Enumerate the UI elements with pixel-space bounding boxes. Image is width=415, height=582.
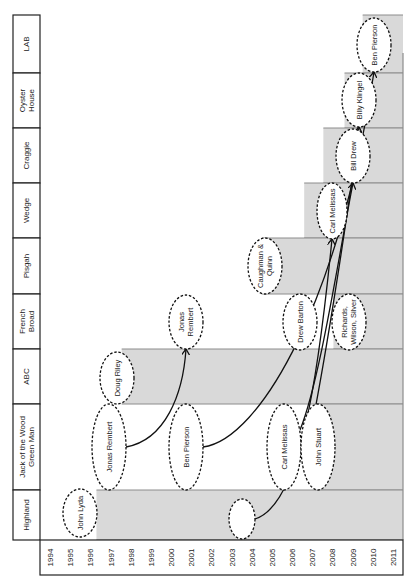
year-label: 1996 <box>86 548 95 566</box>
restaurant-name-line: Oyster <box>18 88 27 112</box>
year-tick: 2009 <box>349 548 358 566</box>
year-tick: 2006 <box>288 548 297 566</box>
year-tick: 1999 <box>147 548 156 566</box>
restaurant-name-line: House <box>27 88 36 112</box>
chef-name: Bill Drew <box>349 141 358 171</box>
year-label: 1995 <box>66 548 75 566</box>
chef-name: Billy Klingel <box>355 80 364 119</box>
chef-name-line: John Stuart <box>314 427 323 466</box>
chef-name: Ben Pierson <box>370 25 379 66</box>
open-period-bar <box>262 238 403 294</box>
year-label: 1998 <box>127 548 136 566</box>
chef-name: Doug Riley <box>113 359 122 396</box>
year-label: 2000 <box>167 548 176 566</box>
year-tick: 2011 <box>389 548 398 566</box>
year-tick: 1997 <box>107 548 116 566</box>
chef-name-line: Jonas Rembert <box>105 421 114 473</box>
restaurant-name-line: LAB <box>22 36 31 51</box>
restaurant-name-line: Jack of the Wood <box>18 416 27 478</box>
year-axis: 1994199519961997199819992000200120022003… <box>40 540 403 575</box>
chef-name-line: Bill Drew <box>349 141 358 171</box>
restaurant-name-line: French <box>18 309 27 334</box>
restaurant-name: Craggie <box>22 141 31 170</box>
year-tick: 2003 <box>228 548 237 566</box>
restaurant-name: OysterHouse <box>18 88 36 112</box>
chef-bubble-bill-drew: Bill Drew <box>336 129 370 183</box>
chef-name-line: Carl Melissas <box>280 424 289 469</box>
chef-bubble-drew-barton: Drew Barton <box>283 294 317 350</box>
restaurant-headers: LABOysterHouseCraggieWedgePisgahFrenchBr… <box>13 15 40 540</box>
restaurant-name-line: Green Man <box>27 427 36 467</box>
restaurant-name-line: Wedge <box>22 197 31 223</box>
chef-bubble-john-lyda: John Lyda <box>63 489 97 537</box>
restaurant-name-line: Pisgah <box>22 254 31 278</box>
year-label: 1999 <box>147 548 156 566</box>
chef-bubble-carl-melissas-wedge: Carl Melissas <box>317 183 347 239</box>
restaurant-name-line: Broad <box>27 311 36 332</box>
year-tick: 2004 <box>248 548 257 566</box>
year-tick: 2001 <box>187 548 196 566</box>
restaurant-name-line: ABC <box>22 368 31 385</box>
restaurant-name-line: Highland <box>22 499 31 531</box>
year-label: 2010 <box>369 548 378 566</box>
chef-name-line: Quinn <box>265 256 274 276</box>
chef-bubble-caughman-quinn: Caughman &Quinn <box>248 238 282 294</box>
year-tick: 2007 <box>308 548 317 566</box>
chef-bubble-ben-pierson-lab: Ben Pierson <box>357 18 391 72</box>
year-label: 2007 <box>308 548 317 566</box>
restaurant-name: Highland <box>22 499 31 531</box>
chef-name: John Stuart <box>314 427 323 466</box>
restaurant-name: Pisgah <box>22 254 31 278</box>
chef-bubble-carl-melissas-jack: Carl Melissas <box>267 404 301 490</box>
chef-bubble-jonas-rembert-jack: Jonas Rembert <box>92 404 126 490</box>
year-tick: 2002 <box>207 548 216 566</box>
restaurant-name: FrenchBroad <box>18 309 36 334</box>
chef-name-line: Drew Barton <box>296 301 305 343</box>
chef-name: Drew Barton <box>296 301 305 343</box>
chef-bubble-unnamed <box>229 499 255 539</box>
restaurant-name: LAB <box>22 36 31 51</box>
diagram-canvas: LABOysterHouseCraggieWedgePisgahFrenchBr… <box>0 0 415 582</box>
year-label: 2002 <box>207 548 216 566</box>
chef-bubble-doug-riley: Doug Riley <box>100 352 134 404</box>
chef-name-line: Wilson, Silver <box>349 299 358 345</box>
year-label: 2005 <box>268 548 277 566</box>
year-label: 2009 <box>349 548 358 566</box>
restaurant-name: Wedge <box>22 197 31 223</box>
year-label: 1994 <box>46 548 55 566</box>
year-tick: 2005 <box>268 548 277 566</box>
year-tick: 1998 <box>127 548 136 566</box>
restaurant-name-line: Craggie <box>22 141 31 170</box>
chef-bubble-john-stuart: John Stuart <box>301 404 335 490</box>
chef-name: John Lyda <box>76 495 85 530</box>
year-label: 1997 <box>107 548 116 566</box>
chef-name-line: Doug Riley <box>113 359 122 396</box>
year-label: 2008 <box>328 548 337 566</box>
chef-name-line: Carl Melissas <box>328 188 337 233</box>
chef-name-line: Ben Pierson <box>182 427 191 468</box>
open-period-bar <box>122 349 403 404</box>
year-label: 2006 <box>288 548 297 566</box>
chef-name: Carl Melissas <box>328 188 337 233</box>
year-tick: 1994 <box>46 548 55 566</box>
chef-name: Carl Melissas <box>280 424 289 469</box>
chef-name-line: Billy Klingel <box>355 80 364 119</box>
chef-name-line: John Lyda <box>76 495 85 530</box>
chef-bubble-outline <box>229 499 255 539</box>
chef-bubble-ben-pierson-jack: Ben Pierson <box>169 404 203 490</box>
year-tick: 2008 <box>328 548 337 566</box>
chef-bubble-richards-wilson-silver: Richards,Wilson, Silver <box>332 294 366 350</box>
chef-bubble-jonas-rembert-fb: JonasRembert <box>169 295 203 349</box>
chef-name-line: Rembert <box>186 307 195 337</box>
year-tick: 2010 <box>369 548 378 566</box>
year-tick: 2000 <box>167 548 176 566</box>
chef-name: Ben Pierson <box>182 427 191 468</box>
year-label: 2011 <box>389 548 398 566</box>
chef-name-line: Ben Pierson <box>370 25 379 66</box>
year-label: 2001 <box>187 548 196 566</box>
year-label: 2004 <box>248 548 257 566</box>
chef-name: Jonas Rembert <box>105 421 114 473</box>
year-label: 2003 <box>228 548 237 566</box>
restaurant-name: ABC <box>22 368 31 385</box>
timeline-diagram: LABOysterHouseCraggieWedgePisgahFrenchBr… <box>0 0 415 582</box>
